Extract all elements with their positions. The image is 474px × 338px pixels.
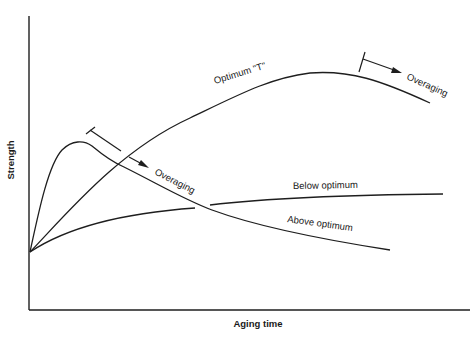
curve-below-optimum-part1: [30, 208, 195, 252]
label-below-optimum: Below optimum: [293, 179, 358, 191]
label-optimum: Optimum "T": [212, 60, 267, 86]
x-axis-label: Aging time: [233, 318, 282, 329]
aging-curve-diagram: Strength Aging time Optimum "T" Below op…: [0, 0, 474, 338]
curve-above-optimum: [30, 142, 390, 252]
overaging-marker-late: [359, 52, 402, 73]
axes: [29, 16, 470, 310]
arrow-right-icon: [138, 160, 149, 168]
marker-bar: [359, 52, 365, 72]
curve-below-optimum-part2: [210, 194, 443, 205]
marker-line: [363, 59, 394, 70]
arrow-right-icon: [391, 67, 402, 73]
y-axis-label: Strength: [5, 140, 16, 179]
label-above-optimum: Above optimum: [287, 213, 354, 233]
label-overaging-early: Overaging: [153, 166, 197, 196]
